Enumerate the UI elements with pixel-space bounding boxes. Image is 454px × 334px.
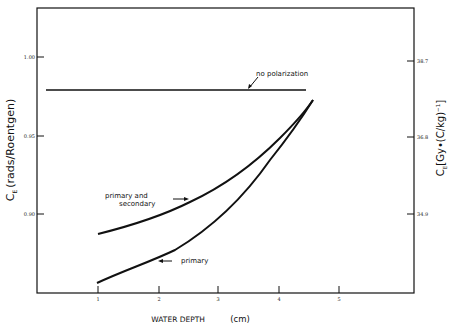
x-axis-unit: (cm) [230, 314, 250, 324]
annotation-primary: primary [158, 257, 208, 265]
arrow-right-icon [184, 197, 189, 201]
annotation-no-polarization: no polarization [248, 70, 308, 89]
x-tick-label: 2 [157, 296, 160, 302]
annotation-primary-and-secondary: primary and secondary [105, 192, 189, 208]
y-right-tick-label: 38.7 [417, 58, 428, 64]
x-tick-label: 3 [216, 296, 219, 302]
x-tick-label: 1 [96, 296, 99, 302]
y-axis-left-ticks: 1.00 0.95 0.90 [24, 54, 44, 217]
x-axis-title: WATER DEPTH [151, 315, 205, 324]
arrow-left-icon [158, 259, 163, 263]
y-axis-left-title: CE(rads/Roentgen) [4, 99, 18, 201]
y-tick-label: 0.95 [24, 133, 35, 139]
svg-text:secondary: secondary [119, 200, 155, 208]
x-axis-ticks: 1 2 3 4 5 [96, 286, 340, 302]
chart: 1.00 0.95 0.90 38.7 36.8 34.9 1 2 3 4 5 … [0, 0, 454, 334]
plot-frame [37, 8, 414, 293]
svg-text:primary and: primary and [105, 192, 148, 200]
y-axis-right-title: CE[Gy•(C/kg)−1] [435, 100, 448, 176]
svg-text:CE[Gy•(C/kg)−1]: CE[Gy•(C/kg)−1] [435, 100, 448, 176]
x-tick-label: 5 [337, 296, 340, 302]
series-primary-and-secondary [98, 100, 313, 234]
y-tick-label: 1.00 [24, 54, 35, 60]
svg-text:primary: primary [181, 257, 208, 265]
y-right-tick-label: 36.8 [417, 134, 428, 140]
y-axis-right-ticks: 38.7 36.8 34.9 [407, 58, 428, 217]
y-right-tick-label: 34.9 [417, 211, 428, 217]
svg-text:CE(rads/Roentgen): CE(rads/Roentgen) [4, 99, 18, 201]
y-tick-label: 0.90 [24, 211, 35, 217]
x-tick-label: 4 [277, 296, 280, 302]
svg-text:no polarization: no polarization [256, 70, 308, 78]
